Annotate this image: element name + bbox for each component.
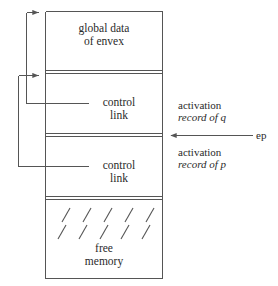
ep-pointer-label: ep (256, 129, 278, 141)
free-memory-label: freememory (46, 242, 162, 268)
activation-record-p-line2: record of p (178, 158, 226, 170)
control-link-arrow-p (19, 76, 89, 167)
activation-record-p-line1: activation (178, 146, 221, 158)
separator-record-q-bottom (46, 134, 163, 137)
separator-global-data-bottom (46, 71, 163, 74)
control-link-p-line2: link (110, 172, 128, 184)
free-memory-line2: memory (85, 255, 123, 267)
activation-record-p-label: activationrecord of p (178, 146, 274, 171)
control-link-q-label: controllink (88, 96, 150, 122)
control-link-q-line2: link (110, 109, 128, 121)
control-link-p-line1: control (103, 159, 136, 171)
diagram-canvas: global dataof envex controllink controll… (0, 0, 278, 286)
separator-record-p-bottom (46, 197, 163, 200)
free-memory-hatch-marks (58, 208, 154, 239)
free-memory-line1: free (95, 242, 113, 254)
control-link-p-label: controllink (88, 159, 150, 185)
control-link-q-line1: control (103, 96, 136, 108)
activation-record-q-line1: activation (178, 99, 221, 111)
global-data-block-label: global dataof envex (46, 22, 162, 48)
memory-box-outline (46, 12, 163, 279)
global-data-line1: global data (79, 22, 130, 34)
activation-record-q-label: activationrecord of q (178, 99, 274, 124)
global-data-line2: of envex (84, 35, 124, 47)
activation-record-q-line2: record of q (178, 111, 226, 123)
